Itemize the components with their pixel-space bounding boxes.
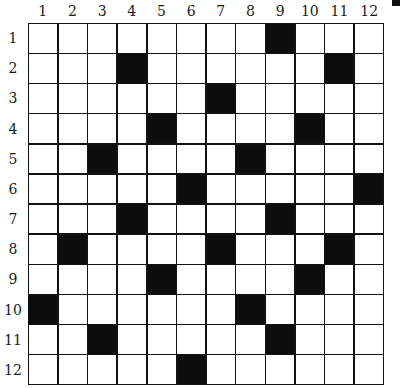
white-cell[interactable]	[29, 114, 57, 143]
white-cell[interactable]	[177, 205, 205, 234]
white-cell[interactable]	[59, 175, 87, 204]
white-cell[interactable]	[355, 145, 383, 174]
white-cell[interactable]	[29, 175, 57, 204]
white-cell[interactable]	[296, 325, 324, 354]
white-cell[interactable]	[59, 355, 87, 384]
white-cell[interactable]	[177, 54, 205, 83]
white-cell[interactable]	[148, 205, 176, 234]
white-cell[interactable]	[296, 295, 324, 324]
white-cell[interactable]	[118, 295, 146, 324]
white-cell[interactable]	[207, 24, 235, 53]
white-cell[interactable]	[59, 54, 87, 83]
white-cell[interactable]	[266, 295, 294, 324]
white-cell[interactable]	[88, 295, 116, 324]
white-cell[interactable]	[236, 54, 264, 83]
white-cell[interactable]	[325, 295, 353, 324]
white-cell[interactable]	[355, 24, 383, 53]
white-cell[interactable]	[177, 145, 205, 174]
white-cell[interactable]	[29, 145, 57, 174]
white-cell[interactable]	[236, 114, 264, 143]
white-cell[interactable]	[207, 295, 235, 324]
white-cell[interactable]	[59, 265, 87, 294]
white-cell[interactable]	[236, 265, 264, 294]
white-cell[interactable]	[325, 114, 353, 143]
white-cell[interactable]	[88, 175, 116, 204]
white-cell[interactable]	[325, 355, 353, 384]
white-cell[interactable]	[325, 175, 353, 204]
white-cell[interactable]	[296, 355, 324, 384]
white-cell[interactable]	[266, 265, 294, 294]
white-cell[interactable]	[118, 355, 146, 384]
white-cell[interactable]	[148, 175, 176, 204]
white-cell[interactable]	[236, 175, 264, 204]
white-cell[interactable]	[118, 325, 146, 354]
white-cell[interactable]	[355, 355, 383, 384]
white-cell[interactable]	[236, 325, 264, 354]
white-cell[interactable]	[207, 175, 235, 204]
white-cell[interactable]	[29, 325, 57, 354]
white-cell[interactable]	[29, 235, 57, 264]
white-cell[interactable]	[207, 325, 235, 354]
white-cell[interactable]	[296, 175, 324, 204]
white-cell[interactable]	[59, 114, 87, 143]
white-cell[interactable]	[355, 114, 383, 143]
white-cell[interactable]	[148, 355, 176, 384]
white-cell[interactable]	[59, 205, 87, 234]
white-cell[interactable]	[236, 235, 264, 264]
white-cell[interactable]	[266, 355, 294, 384]
white-cell[interactable]	[177, 235, 205, 264]
white-cell[interactable]	[118, 145, 146, 174]
white-cell[interactable]	[236, 355, 264, 384]
white-cell[interactable]	[355, 265, 383, 294]
white-cell[interactable]	[88, 355, 116, 384]
white-cell[interactable]	[296, 205, 324, 234]
white-cell[interactable]	[355, 84, 383, 113]
white-cell[interactable]	[148, 145, 176, 174]
white-cell[interactable]	[325, 265, 353, 294]
white-cell[interactable]	[177, 84, 205, 113]
white-cell[interactable]	[296, 145, 324, 174]
white-cell[interactable]	[59, 295, 87, 324]
white-cell[interactable]	[59, 84, 87, 113]
white-cell[interactable]	[355, 54, 383, 83]
white-cell[interactable]	[207, 54, 235, 83]
white-cell[interactable]	[325, 84, 353, 113]
white-cell[interactable]	[236, 205, 264, 234]
white-cell[interactable]	[207, 355, 235, 384]
white-cell[interactable]	[207, 114, 235, 143]
white-cell[interactable]	[296, 24, 324, 53]
white-cell[interactable]	[236, 84, 264, 113]
white-cell[interactable]	[118, 235, 146, 264]
white-cell[interactable]	[148, 235, 176, 264]
white-cell[interactable]	[59, 24, 87, 53]
white-cell[interactable]	[355, 205, 383, 234]
white-cell[interactable]	[177, 295, 205, 324]
white-cell[interactable]	[355, 295, 383, 324]
white-cell[interactable]	[88, 54, 116, 83]
white-cell[interactable]	[207, 205, 235, 234]
white-cell[interactable]	[88, 235, 116, 264]
white-cell[interactable]	[29, 54, 57, 83]
white-cell[interactable]	[325, 24, 353, 53]
white-cell[interactable]	[207, 145, 235, 174]
white-cell[interactable]	[148, 295, 176, 324]
white-cell[interactable]	[266, 145, 294, 174]
white-cell[interactable]	[148, 54, 176, 83]
white-cell[interactable]	[118, 84, 146, 113]
white-cell[interactable]	[236, 24, 264, 53]
white-cell[interactable]	[325, 325, 353, 354]
white-cell[interactable]	[296, 84, 324, 113]
white-cell[interactable]	[118, 265, 146, 294]
white-cell[interactable]	[266, 235, 294, 264]
white-cell[interactable]	[177, 24, 205, 53]
white-cell[interactable]	[355, 235, 383, 264]
white-cell[interactable]	[29, 355, 57, 384]
white-cell[interactable]	[88, 114, 116, 143]
white-cell[interactable]	[118, 175, 146, 204]
white-cell[interactable]	[118, 24, 146, 53]
white-cell[interactable]	[29, 265, 57, 294]
white-cell[interactable]	[177, 114, 205, 143]
white-cell[interactable]	[177, 265, 205, 294]
white-cell[interactable]	[207, 265, 235, 294]
white-cell[interactable]	[296, 235, 324, 264]
